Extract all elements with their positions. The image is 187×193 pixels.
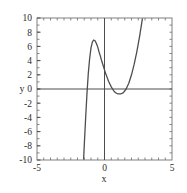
x-tick-label: -5 [33,163,41,173]
y-tick-label: 6 [27,42,32,52]
plot-svg: -10-8-6-4-20246810 -505 y x [0,0,187,193]
y-tick-label: -2 [24,99,32,109]
x-axis-tick-labels: -505 [33,163,175,173]
y-tick-label: 2 [27,70,32,80]
y-tick-label: 8 [27,28,32,38]
cubic-function-plot: -10-8-6-4-20246810 -505 y x [0,0,187,193]
x-axis-title: x [102,173,107,184]
x-tick-label: 0 [102,163,107,173]
y-tick-label: -8 [24,141,32,151]
y-tick-label: -6 [24,127,32,137]
y-tick-label: -10 [19,155,32,165]
y-tick-label: 4 [27,56,32,66]
x-tick-label: 5 [170,163,175,173]
y-tick-label: -4 [24,113,32,123]
y-axis-title: y [20,83,25,94]
y-tick-label: 10 [23,13,33,23]
y-tick-label: 0 [27,84,32,94]
